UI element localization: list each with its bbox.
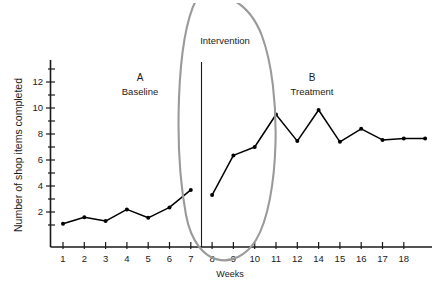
treatment-point-week-18 — [423, 137, 427, 141]
phase-b-label: Treatment — [291, 86, 334, 97]
baseline-point-week-2 — [82, 215, 86, 219]
x-axis-ticks — [63, 242, 404, 249]
x-tick-label-5: 5 — [146, 253, 151, 264]
page-top-edge — [0, 0, 443, 3]
y-axis-tick-labels: 24681012 — [32, 76, 43, 217]
x-tick-label-7: 7 — [188, 253, 193, 264]
baseline-series-points — [61, 188, 193, 226]
x-tick-label-6: 6 — [167, 253, 172, 264]
baseline-point-week-3 — [104, 219, 108, 223]
baseline-point-week-1 — [61, 222, 65, 226]
baseline-point-week-5 — [146, 216, 150, 220]
phase-a-letter: A — [137, 72, 144, 83]
treatment-point-week-9 — [231, 153, 235, 157]
treatment-series-line — [212, 110, 425, 195]
phase-a-label: Baseline — [122, 86, 158, 97]
figure-root: 24681012 1234567891011121415161718 Inter… — [0, 0, 443, 295]
phase-b-letter: B — [309, 72, 316, 83]
treatment-point-week-8 — [210, 193, 214, 197]
baseline-series-line — [63, 190, 191, 224]
x-tick-label-4: 4 — [124, 253, 129, 264]
y-tick-label-2: 2 — [38, 206, 43, 217]
x-tick-label-2: 2 — [82, 253, 87, 264]
x-tick-label-15: 15 — [335, 253, 346, 264]
x-tick-label-1: 1 — [60, 253, 65, 264]
y-tick-label-4: 4 — [38, 180, 43, 191]
baseline-point-week-4 — [125, 207, 129, 211]
x-tick-label-18: 18 — [399, 253, 410, 264]
y-tick-label-8: 8 — [38, 128, 43, 139]
treatment-point-week-13 — [317, 108, 321, 112]
treatment-point-week-15 — [359, 127, 363, 131]
y-axis-title: Number of shop items completed — [12, 78, 24, 232]
x-axis-title: Weeks — [216, 269, 244, 279]
x-tick-label-17: 17 — [377, 253, 388, 264]
x-tick-label-10: 10 — [249, 253, 260, 264]
x-tick-label-12: 12 — [292, 253, 303, 264]
baseline-point-week-6 — [168, 205, 172, 209]
intervention-label: Intervention — [200, 35, 250, 46]
y-tick-label-6: 6 — [38, 154, 43, 165]
y-axis-minor-ticks — [48, 69, 55, 225]
treatment-point-week-14 — [338, 140, 342, 144]
y-tick-label-10: 10 — [32, 102, 43, 113]
x-tick-label-14: 14 — [313, 253, 324, 264]
treatment-point-week-12 — [295, 139, 299, 143]
treatment-point-week-17 — [402, 137, 406, 141]
x-tick-label-3: 3 — [103, 253, 108, 264]
treatment-point-week-10 — [253, 145, 257, 149]
baseline-point-week-7 — [189, 188, 193, 192]
treatment-point-week-16 — [381, 138, 385, 142]
x-tick-label-11: 11 — [271, 253, 281, 264]
ab-design-line-chart: 24681012 1234567891011121415161718 Inter… — [0, 0, 443, 295]
x-tick-label-16: 16 — [356, 253, 367, 264]
y-tick-label-12: 12 — [32, 76, 43, 87]
